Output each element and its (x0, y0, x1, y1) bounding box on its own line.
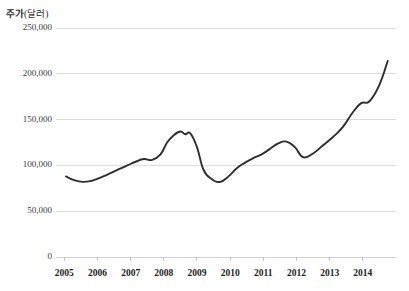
x-axis-tickmarks (64, 257, 363, 261)
x-axis-tick-label: 2010 (213, 268, 247, 278)
x-axis-tick-label: 2006 (80, 268, 114, 278)
x-axis-tick-label: 2012 (279, 268, 313, 278)
stock-price-series-line (66, 61, 388, 182)
gridlines (56, 28, 396, 257)
x-axis-tick-label: 2008 (147, 268, 181, 278)
x-axis-tick-label: 2009 (180, 268, 214, 278)
plot-area (0, 0, 409, 291)
x-axis-tick-label: 2005 (47, 268, 81, 278)
x-axis-tick-label: 2007 (114, 268, 148, 278)
x-axis-tick-label: 2013 (313, 268, 347, 278)
x-axis-tick-label: 2014 (346, 268, 380, 278)
x-axis-tick-label: 2011 (246, 268, 280, 278)
stock-price-line-chart: 주가(달러) 050,000100,000150,000200,000250,0… (0, 0, 409, 291)
